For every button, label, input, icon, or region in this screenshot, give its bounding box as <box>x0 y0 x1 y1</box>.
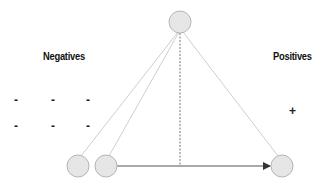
minus-sign: - <box>14 120 18 132</box>
minus-sign: - <box>51 94 55 106</box>
minus-sign: - <box>86 94 90 106</box>
diagram-canvas <box>0 0 321 191</box>
positives-label: Positives <box>273 50 312 62</box>
edge-top-to-bottom-right <box>183 32 278 156</box>
edge-top-to-bottom-left-2 <box>109 32 179 156</box>
minus-sign: - <box>51 120 55 132</box>
node-bottom-left-2 <box>95 155 117 177</box>
edge-top-to-bottom-left-1 <box>81 32 178 156</box>
node-bottom-left-1 <box>67 155 89 177</box>
node-top <box>169 11 191 33</box>
minus-sign: - <box>86 120 90 132</box>
negatives-label: Negatives <box>43 50 85 62</box>
plus-sign: + <box>289 105 296 117</box>
minus-sign: - <box>14 94 18 106</box>
node-bottom-right <box>271 155 293 177</box>
